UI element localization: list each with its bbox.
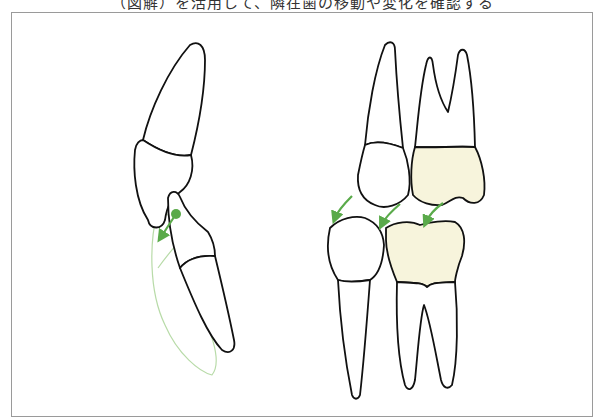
sagittal-view xyxy=(134,43,234,375)
upper-premolar-root xyxy=(365,42,403,148)
drift-arrow-premolar xyxy=(335,196,352,218)
lower-molar-crown xyxy=(386,221,464,287)
mesiodistal-view xyxy=(328,42,485,398)
lower-incisor-root xyxy=(180,256,234,352)
dental-illustration xyxy=(0,0,605,420)
upper-molar-crown xyxy=(411,147,484,205)
upper-molar-roots xyxy=(415,50,475,148)
lower-premolar-root xyxy=(338,280,370,399)
upper-incisor-root xyxy=(143,43,205,156)
lower-molar-roots xyxy=(397,282,457,389)
lower-premolar-crown xyxy=(328,217,384,282)
upper-premolar-crown xyxy=(358,142,410,207)
